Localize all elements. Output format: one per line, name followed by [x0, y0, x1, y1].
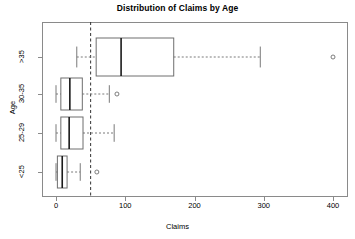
y-tick-mark: [38, 172, 42, 173]
x-axis-title: Claims: [0, 222, 355, 231]
x-tick-label: 0: [43, 201, 69, 210]
outlier-point: [115, 92, 119, 96]
x-tick-label: 400: [320, 201, 346, 210]
y-tick-label-25-29: 25-29: [17, 116, 26, 150]
x-tick-label: 300: [251, 201, 277, 210]
box-iqr: [61, 117, 83, 149]
outlier-point: [331, 55, 335, 59]
box-iqr: [96, 38, 174, 76]
boxplot-group-25-29: [56, 117, 114, 149]
boxplot-canvas: [42, 22, 348, 197]
y-tick-mark: [38, 57, 42, 58]
chart-title: Distribution of Claims by Age: [0, 3, 355, 13]
x-tick-label: 100: [112, 201, 138, 210]
boxplot-group->35: [77, 38, 335, 76]
box-iqr: [61, 78, 82, 110]
x-tick-label: 200: [182, 201, 208, 210]
y-tick-label->35: >35: [17, 40, 26, 74]
y-axis-title: Age: [8, 88, 17, 128]
y-tick-mark: [38, 133, 42, 134]
boxplot-group-30-35: [56, 78, 119, 110]
boxplot-group-<25: [56, 156, 99, 188]
y-tick-mark: [38, 94, 42, 95]
y-tick-label-30-35: 30-35: [17, 77, 26, 111]
chart-root: Distribution of Claims by Age 0100200300…: [0, 0, 355, 239]
outlier-point: [95, 170, 99, 174]
y-tick-label-<25: <25: [17, 155, 26, 189]
